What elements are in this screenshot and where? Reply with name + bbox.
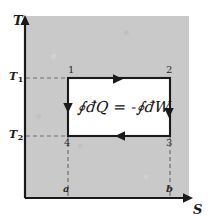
y-tick-label-t1: T1 bbox=[9, 71, 23, 83]
y-tick-label-t2: T2 bbox=[9, 129, 23, 141]
cycle-corner-label-3: 3 bbox=[166, 138, 172, 148]
cycle-corner-label-2: 2 bbox=[166, 65, 172, 75]
y-axis-label: T bbox=[13, 14, 23, 27]
y-tick-t1-subscript: 1 bbox=[18, 74, 24, 84]
y-tick-t2-symbol: T bbox=[9, 128, 17, 141]
cycle-corner-label-4: 4 bbox=[64, 138, 70, 148]
thermodynamic-ts-diagram: T S T1 T2 a b 1 2 3 4 ∮đQ = -∮đW bbox=[0, 0, 213, 222]
x-axis-label: S bbox=[193, 203, 202, 216]
cycle-equation: ∮đQ = -∮đW bbox=[77, 98, 171, 116]
y-tick-t1-symbol: T bbox=[9, 70, 17, 83]
x-axis-arrowhead bbox=[183, 193, 193, 202]
y-tick-t2-subscript: 2 bbox=[18, 132, 24, 142]
x-tick-label-a: a bbox=[63, 184, 69, 194]
cycle-corner-label-1: 1 bbox=[68, 65, 74, 75]
x-tick-label-b: b bbox=[166, 184, 173, 194]
